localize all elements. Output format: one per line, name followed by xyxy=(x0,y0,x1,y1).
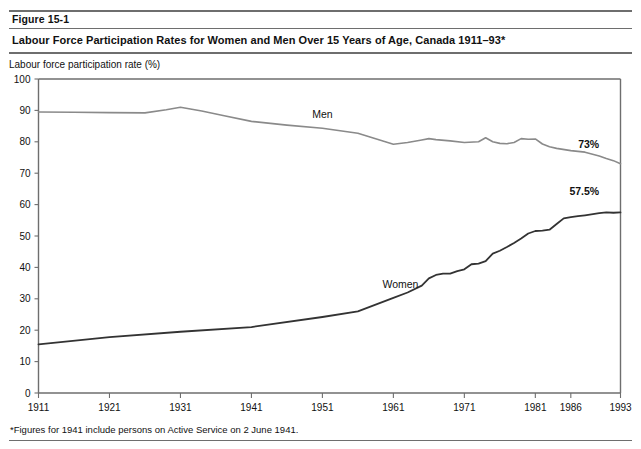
y-tick-label: 100 xyxy=(14,74,31,85)
chart-annotations: MenWomen73%57.5% xyxy=(312,108,600,290)
y-tick-label: 70 xyxy=(19,168,31,179)
figure-footnote: *Figures for 1941 include persons on Act… xyxy=(10,423,298,436)
y-tick-label: 50 xyxy=(19,231,31,242)
figure-container: Figure 15-1 Labour Force Participation R… xyxy=(0,0,641,449)
end-value-label: 73% xyxy=(578,138,600,150)
y-tick-label: 80 xyxy=(19,136,31,147)
series-name-label: Men xyxy=(312,108,333,120)
x-tick-label: 1941 xyxy=(240,402,263,413)
series-lines xyxy=(39,107,621,344)
end-value-label: 57.5% xyxy=(569,185,599,197)
x-tick-label: 1951 xyxy=(311,402,334,413)
y-tick-label: 90 xyxy=(19,105,31,116)
y-tick-label: 30 xyxy=(19,293,31,304)
x-tick-label: 1911 xyxy=(28,402,50,413)
x-tick-label: 1981 xyxy=(524,402,547,413)
x-tick-label: 1931 xyxy=(169,402,192,413)
line-chart: 0102030405060708090100 19111921193119411… xyxy=(0,0,641,449)
y-tick-label: 60 xyxy=(19,199,31,210)
x-tick-label: 1971 xyxy=(453,402,476,413)
x-tick-label: 1921 xyxy=(98,402,121,413)
y-tick-label: 0 xyxy=(25,388,31,399)
y-tick-label: 40 xyxy=(19,262,31,273)
x-tick-label: 1993 xyxy=(609,402,632,413)
x-tick-label: 1961 xyxy=(382,402,405,413)
series-line-women xyxy=(39,212,621,344)
y-tick-label: 10 xyxy=(19,356,31,367)
series-name-label: Women xyxy=(382,278,418,290)
y-tick-label: 20 xyxy=(19,325,31,336)
x-tick-label: 1986 xyxy=(560,402,583,413)
y-axis: 0102030405060708090100 xyxy=(14,74,39,399)
